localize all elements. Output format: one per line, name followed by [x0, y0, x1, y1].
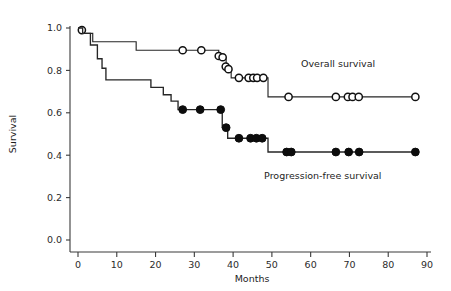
x-tick-label: 90 — [421, 259, 433, 270]
x-axis-title: Months — [235, 273, 270, 284]
censor-marker-open — [225, 66, 232, 73]
x-tick-label: 0 — [75, 259, 81, 270]
censor-marker-filled — [287, 148, 295, 156]
x-tick-label: 10 — [111, 259, 123, 270]
censor-marker-open — [332, 93, 339, 100]
censor-marker-open — [260, 74, 267, 81]
censor-marker-open — [198, 47, 205, 54]
y-axis-title: Survival — [7, 115, 18, 153]
censor-marker-open — [179, 47, 186, 54]
censor-marker-filled — [235, 134, 243, 142]
x-tick-label: 80 — [382, 259, 394, 270]
censor-marker-filled — [411, 148, 419, 156]
y-tick-label: 0.4 — [47, 150, 62, 161]
censor-marker-filled — [222, 124, 230, 132]
y-tick-label: 0.2 — [47, 192, 62, 203]
censor-marker-open — [412, 93, 419, 100]
x-tick-label: 70 — [343, 259, 355, 270]
y-tick-label: 0.8 — [47, 65, 62, 76]
censor-marker-filled — [345, 148, 353, 156]
chart-background — [0, 0, 451, 291]
overall-survival-label: Overall survival — [301, 58, 375, 69]
kaplan-meier-chart: 0.00.20.40.60.81.0 0102030405060708090 S… — [0, 0, 451, 291]
progression-free-survival-label: Progression-free survival — [264, 170, 381, 181]
x-tick-label: 50 — [266, 259, 278, 270]
censor-marker-filled — [196, 106, 204, 114]
censor-marker-filled — [332, 148, 340, 156]
x-tick-label: 40 — [227, 259, 239, 270]
censor-marker-filled — [258, 134, 266, 142]
censor-marker-open — [285, 93, 292, 100]
x-tick-label: 20 — [150, 259, 162, 270]
y-tick-label: 0.0 — [47, 234, 62, 245]
censor-marker-open — [355, 93, 362, 100]
censor-marker-filled — [217, 106, 225, 114]
y-tick-label: 1.0 — [47, 22, 62, 33]
y-tick-label: 0.6 — [47, 107, 62, 118]
x-tick-label: 60 — [305, 259, 317, 270]
censor-marker-filled — [355, 148, 363, 156]
survival-plot-svg: 0.00.20.40.60.81.0 0102030405060708090 S… — [0, 0, 451, 291]
censor-marker-open — [235, 74, 242, 81]
censor-marker-open — [219, 54, 226, 61]
censor-marker-filled — [179, 106, 187, 114]
x-tick-label: 30 — [188, 259, 200, 270]
